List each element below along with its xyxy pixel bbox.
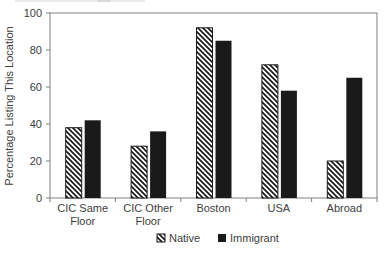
y-tick-label: 100 (24, 7, 42, 19)
bar-immigrant-usa (281, 91, 297, 198)
y-tick-label: 80 (30, 44, 42, 56)
x-category-label: Boston (196, 202, 230, 214)
bar-native-cic-same-floor (66, 128, 82, 198)
legend: NativeImmigrant (157, 232, 279, 244)
bar-native-cic-other-floor (131, 146, 147, 198)
legend-item-native: Native (157, 232, 200, 244)
legend-label: Immigrant (230, 232, 279, 244)
legend-item-immigrant: Immigrant (218, 232, 279, 244)
y-tick-label: 40 (30, 118, 42, 130)
bar-immigrant-boston (216, 41, 232, 198)
bar-chart: 020406080100CIC SameFloorCIC OtherFloorB… (0, 0, 387, 256)
bar-native-abroad (327, 161, 343, 198)
plot-layer: 020406080100CIC SameFloorCIC OtherFloorB… (24, 7, 377, 227)
x-category-label: CIC OtherFloor (123, 202, 173, 227)
chart-figure: 020406080100CIC SameFloorCIC OtherFloorB… (0, 0, 387, 256)
y-tick-label: 20 (30, 155, 42, 167)
black-square-icon (218, 234, 226, 242)
bar-immigrant-cic-same-floor (85, 120, 101, 198)
y-axis-title: Percentage Listing This Location (3, 26, 15, 185)
legend-label: Native (169, 232, 200, 244)
y-tick-label: 60 (30, 81, 42, 93)
x-category-label: USA (268, 202, 291, 214)
x-category-label: Abroad (327, 202, 362, 214)
x-category-label: CIC SameFloor (57, 202, 108, 227)
bar-native-boston (197, 28, 213, 198)
bar-native-usa (262, 65, 278, 198)
bar-immigrant-cic-other-floor (150, 131, 166, 198)
hatched-square-icon (157, 234, 165, 242)
y-tick-label: 0 (36, 192, 42, 204)
bar-immigrant-abroad (346, 78, 362, 198)
